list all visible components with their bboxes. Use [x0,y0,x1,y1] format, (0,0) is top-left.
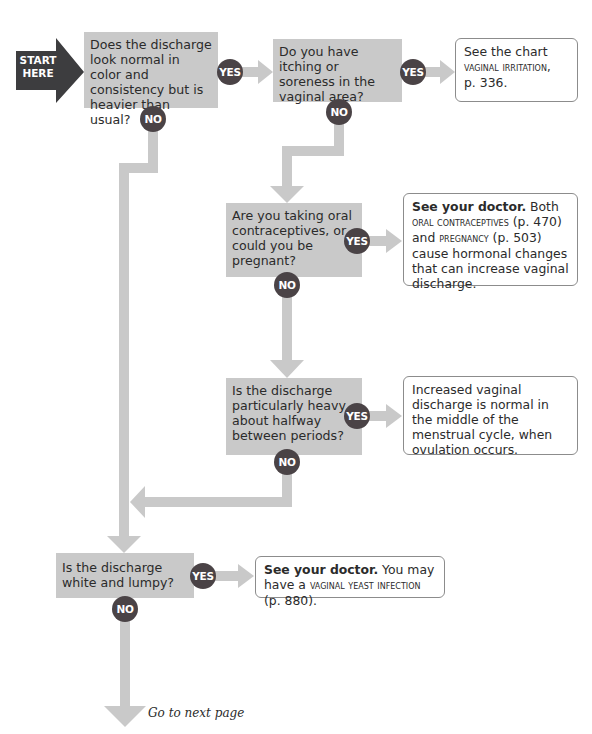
question-q4: Is the discharge particularly heavy abou… [226,378,362,455]
result-r4-text-c: (p. 880). [264,593,317,608]
no-badge-q3: NO [274,272,300,298]
result-r2: See your doctor. Both oral contraceptive… [403,193,578,286]
start-here-label: START HERE [16,54,60,80]
yes-badge-q1: YES [217,59,243,85]
no-badge-q5: NO [112,596,138,622]
result-r2-text-a: Both [526,199,559,214]
see-doctor-label: See your doctor. [412,199,526,214]
start-label-line1: START [16,54,60,67]
yes-badge-q3: YES [344,228,370,254]
yes-badge-q5: YES [190,563,216,589]
no-badge-q4: NO [274,449,300,475]
yes-badge-q2: YES [400,59,426,85]
question-q1: Does the discharge look normal in color … [84,32,218,108]
result-r1: See the chart vaginal irritation, p. 336… [455,38,578,102]
question-q5: Is the discharge white and lumpy? [56,553,194,598]
yeast-infection-link[interactable]: vaginal yeast infection [310,578,421,592]
result-r1-page: p. 336. [464,75,507,90]
result-r1-text: See the chart [464,44,548,59]
result-r1-chart-link[interactable]: vaginal irritation, [464,60,551,74]
yes-badge-q4: YES [344,403,370,429]
question-q3: Are you taking oral contraceptives, or c… [226,203,362,277]
start-label-line2: HERE [16,67,60,80]
no-badge-q2: NO [326,99,352,125]
result-r4: See your doctor. You may have a vaginal … [255,556,445,598]
see-doctor-label: See your doctor. [264,562,378,577]
no-badge-q1: NO [140,106,166,132]
flow-connectors [0,0,592,734]
pregnancy-link[interactable]: pregnancy [439,231,488,245]
go-to-next-page[interactable]: Go to next page [148,706,244,720]
oral-contraceptives-link[interactable]: oral contraceptives [412,215,509,229]
result-r3: Increased vaginal discharge is normal in… [403,376,578,455]
question-q2: Do you have itching or soreness in the v… [273,39,402,102]
